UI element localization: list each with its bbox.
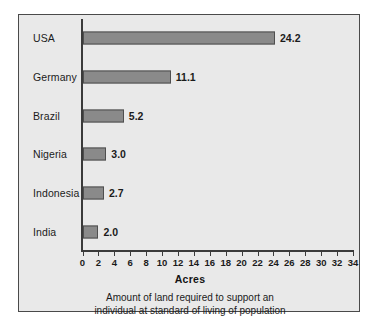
bar[interactable] (83, 70, 171, 83)
x-axis-title: Acres (19, 273, 361, 285)
bar[interactable] (83, 32, 276, 45)
caption-line-1: Amount of land required to support an (19, 292, 361, 305)
x-axis-tick-label: 2 (96, 257, 101, 268)
bar-value-label: 3.0 (111, 148, 126, 160)
x-axis-tick-label: 8 (143, 257, 148, 268)
category-label: India (33, 226, 56, 238)
category-label: Germany (33, 71, 77, 83)
x-axis-tick-label: 6 (128, 257, 133, 268)
caption-line-2: individual at standard of living of popu… (19, 305, 361, 318)
x-axis-tick-label: 22 (252, 257, 263, 268)
x-axis-tick (305, 250, 306, 256)
figure-caption: Amount of land required to support an in… (19, 292, 361, 317)
x-axis-tick (146, 250, 147, 256)
x-axis-tick-label: 10 (157, 257, 168, 268)
x-axis-tick-label: 34 (348, 257, 359, 268)
plot-area: USA24.2Germany11.1Brazil5.2Nigeria3.0Ind… (19, 15, 361, 313)
x-axis-tick-label: 4 (112, 257, 117, 268)
x-axis-tick-label: 0 (80, 257, 85, 268)
x-axis-tick-labels: 0246810121416182022242628303234 (19, 257, 361, 271)
category-label: USA (33, 32, 55, 44)
bar-row: Nigeria3.0 (19, 135, 361, 174)
x-axis-tick (114, 250, 115, 256)
x-axis-tick (353, 250, 354, 256)
x-axis-tick (210, 250, 211, 256)
bar-value-label: 24.2 (280, 32, 300, 44)
bar-value-label: 5.2 (129, 110, 144, 122)
x-axis-tick-label: 30 (316, 257, 327, 268)
bar-row: Germany11.1 (19, 58, 361, 97)
x-axis-tick-label: 16 (204, 257, 215, 268)
x-axis-tick (98, 250, 99, 256)
x-axis-tick (162, 250, 163, 256)
bar-value-label: 11.1 (176, 71, 196, 83)
bar[interactable] (83, 186, 104, 199)
x-axis-tick-label: 20 (236, 257, 247, 268)
x-axis-tick-label: 32 (332, 257, 343, 268)
bar[interactable] (83, 148, 107, 161)
category-label: Brazil (33, 110, 60, 122)
x-axis-tick (337, 250, 338, 256)
bar-rows: USA24.2Germany11.1Brazil5.2Nigeria3.0Ind… (19, 19, 361, 251)
x-axis-tick-label: 26 (284, 257, 295, 268)
x-axis-tick (258, 250, 259, 256)
x-axis-tick (194, 250, 195, 256)
x-axis-tick-label: 28 (300, 257, 311, 268)
category-label: Nigeria (33, 148, 67, 160)
x-axis-tick (289, 250, 290, 256)
bar[interactable] (83, 225, 99, 238)
chart-figure: USA24.2Germany11.1Brazil5.2Nigeria3.0Ind… (0, 0, 372, 326)
x-axis-tick (83, 250, 84, 256)
bar-row: USA24.2 (19, 19, 361, 58)
bar[interactable] (83, 109, 124, 122)
x-axis-tick (226, 250, 227, 256)
x-axis-tick (130, 250, 131, 256)
x-axis-tick (178, 250, 179, 256)
bar-row: India2.0 (19, 212, 361, 251)
category-label: Indonesia (33, 187, 79, 199)
x-axis-tick-label: 14 (189, 257, 200, 268)
x-axis-tick (273, 250, 274, 256)
chart-frame: USA24.2Germany11.1Brazil5.2Nigeria3.0Ind… (18, 14, 360, 312)
x-axis-tick-label: 12 (173, 257, 184, 268)
x-axis-tick (242, 250, 243, 256)
x-axis-tick-label: 18 (220, 257, 231, 268)
bar-value-label: 2.0 (103, 226, 118, 238)
bar-value-label: 2.7 (109, 187, 124, 199)
x-axis-tick-label: 24 (268, 257, 279, 268)
x-axis-tick (321, 250, 322, 256)
bar-row: Indonesia2.7 (19, 174, 361, 213)
bar-row: Brazil5.2 (19, 96, 361, 135)
